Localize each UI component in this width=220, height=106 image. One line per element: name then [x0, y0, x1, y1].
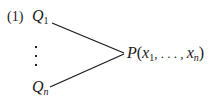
edge-qn-to-p	[50, 54, 124, 87]
target-argn: x	[187, 44, 194, 61]
target-separator: , . . . ,	[154, 46, 187, 61]
target-function: P(x1, . . . , xn)	[127, 44, 204, 62]
target-close-paren: )	[199, 44, 204, 61]
edge-q1-to-p	[52, 23, 124, 53]
target-function-name: P	[127, 44, 137, 61]
